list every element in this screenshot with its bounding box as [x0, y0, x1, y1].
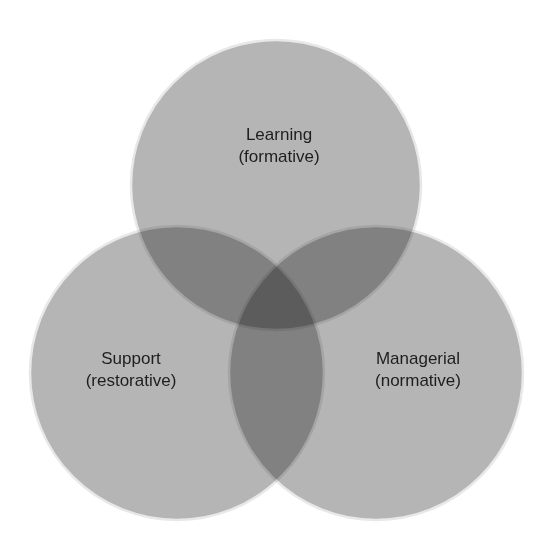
learning-title: Learning — [238, 124, 319, 146]
support-label: Support (restorative) — [86, 348, 177, 392]
support-title: Support — [86, 348, 177, 370]
managerial-label: Managerial (normative) — [375, 348, 461, 392]
managerial-subtitle: (normative) — [375, 370, 461, 392]
learning-subtitle: (formative) — [238, 146, 319, 168]
support-subtitle: (restorative) — [86, 370, 177, 392]
learning-label: Learning (formative) — [238, 124, 319, 168]
managerial-title: Managerial — [375, 348, 461, 370]
venn-diagram — [0, 0, 553, 546]
